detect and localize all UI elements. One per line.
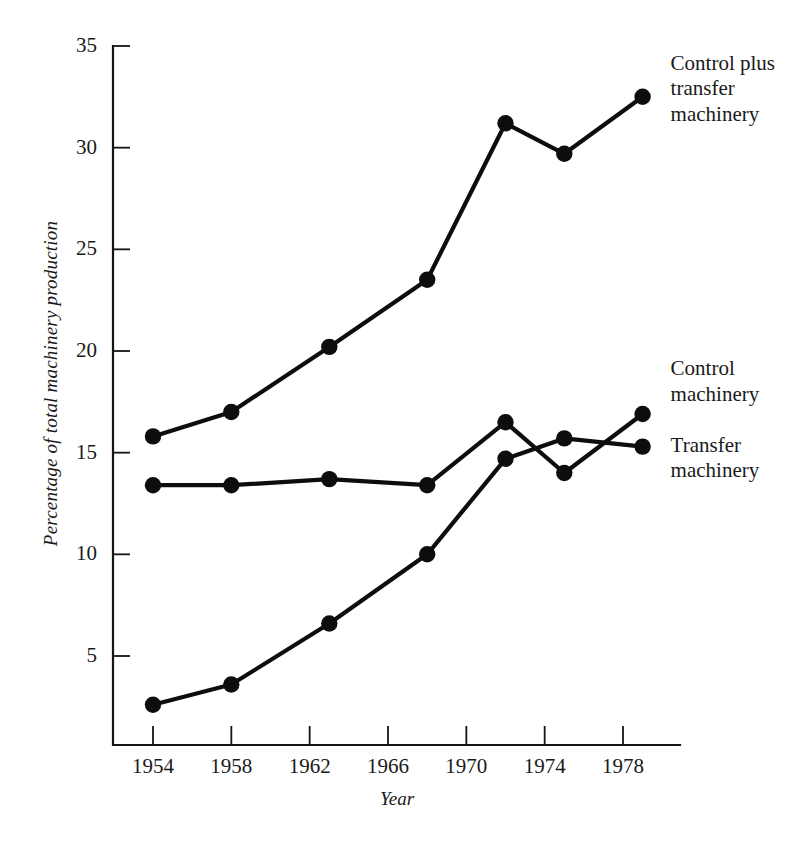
y-axis-title: Percentage of total machinery production [41, 164, 60, 604]
data-point-marker [321, 339, 337, 355]
axis-lines [113, 46, 680, 745]
chart-axes [113, 46, 680, 745]
data-point-marker [634, 406, 650, 422]
x-tick-label: 1966 [343, 756, 433, 777]
data-point-marker [223, 404, 239, 420]
x-axis-ticks [153, 726, 623, 745]
chart-series-group [145, 89, 651, 713]
data-point-marker [634, 438, 650, 454]
data-point-marker [419, 272, 435, 288]
x-tick-label: 1958 [186, 756, 276, 777]
chart-series [145, 430, 651, 713]
y-tick-label: 35 [35, 35, 97, 56]
data-point-marker [497, 115, 513, 131]
data-point-marker [556, 430, 572, 446]
x-tick-label: 1970 [421, 756, 511, 777]
series-label-1: Control plus transfer machinery [671, 51, 775, 128]
x-tick-label: 1978 [578, 756, 668, 777]
data-point-marker [556, 146, 572, 162]
y-axis-ticks [113, 46, 130, 656]
y-tick-label: 30 [35, 137, 97, 158]
series-label-2: Control machinery [671, 356, 760, 407]
chart-series [145, 406, 651, 494]
data-point-marker [223, 676, 239, 692]
data-point-marker [556, 465, 572, 481]
x-axis-title: Year [0, 789, 794, 808]
y-tick-label: 5 [35, 645, 97, 666]
series-label-3: Transfer machinery [671, 433, 760, 484]
chart-figure: 5101520253035 19541958196219661970197419… [0, 0, 794, 858]
data-point-marker [321, 471, 337, 487]
data-point-marker [419, 477, 435, 493]
data-point-marker [223, 477, 239, 493]
data-point-marker [497, 414, 513, 430]
data-point-marker [419, 546, 435, 562]
x-tick-label: 1974 [500, 756, 590, 777]
data-point-marker [497, 451, 513, 467]
data-point-marker [634, 89, 650, 105]
data-point-marker [145, 428, 161, 444]
data-point-marker [321, 615, 337, 631]
chart-series [145, 89, 651, 445]
data-point-marker [145, 477, 161, 493]
x-tick-label: 1962 [265, 756, 355, 777]
data-point-marker [145, 697, 161, 713]
x-tick-label: 1954 [108, 756, 198, 777]
chart-plot-area [0, 0, 794, 858]
